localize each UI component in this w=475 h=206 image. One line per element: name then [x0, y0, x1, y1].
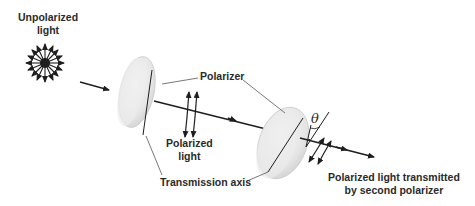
second-polarizer [248, 100, 318, 186]
polarizer-label: Polarizer [200, 70, 244, 83]
theta-angle-label: θ [311, 111, 319, 126]
transmitted-light-label: Polarized light transmitted by second po… [328, 171, 460, 197]
first-polarizer [112, 53, 161, 135]
transmission-axis-label: Transmission axis [160, 176, 251, 189]
unpolarized-light-label: Unpolarized light [18, 11, 78, 37]
polarized-light-label: Polarized light [166, 137, 213, 163]
light-source-dot [40, 58, 50, 68]
incoming-light-arrow [80, 82, 109, 90]
polarized-light-arrows-icon [185, 92, 197, 137]
